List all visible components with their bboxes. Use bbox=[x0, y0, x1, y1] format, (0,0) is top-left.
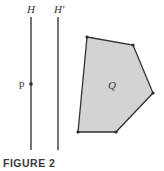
figure-caption: FIGURE 2 bbox=[3, 157, 55, 169]
label-p: p bbox=[19, 77, 25, 89]
vertex-2 bbox=[131, 43, 134, 46]
label-h: H bbox=[26, 3, 36, 15]
vertex-1 bbox=[85, 35, 88, 38]
vertex-5 bbox=[76, 130, 79, 133]
vertex-3 bbox=[151, 91, 154, 94]
figure-diagram: H H' p Q bbox=[0, 0, 164, 171]
label-q: Q bbox=[108, 79, 116, 91]
vertex-4 bbox=[114, 130, 117, 133]
point-p bbox=[29, 82, 33, 86]
label-h-prime: H' bbox=[53, 3, 65, 15]
